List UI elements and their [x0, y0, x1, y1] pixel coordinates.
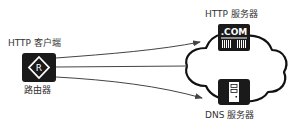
http-client-label: HTTP 客户端 [8, 38, 61, 49]
web-server-icon: .COM [218, 24, 250, 51]
edge-client-to-http-server [56, 42, 200, 58]
router-glyph: R [36, 63, 42, 73]
dns-server-label: DNS 服务器 [205, 110, 254, 121]
connection-lines [56, 42, 202, 98]
http-server-label: HTTP 服务器 [205, 9, 258, 20]
edge-client-to-cloud [56, 66, 188, 67]
router-icon: R [22, 53, 56, 82]
web-server-glyph: .COM [221, 27, 248, 37]
dns-server-icon [218, 79, 250, 105]
router-label: 路由器 [24, 85, 51, 96]
edge-client-to-dns-server [56, 77, 202, 98]
